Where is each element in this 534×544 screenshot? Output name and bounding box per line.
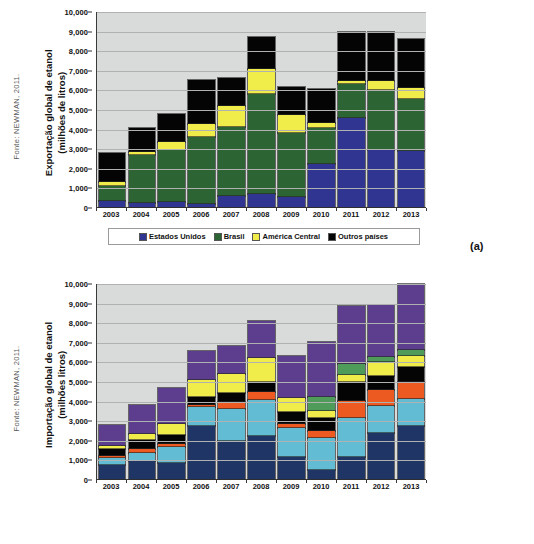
bar-segment-america-central [158, 424, 185, 435]
gridline [97, 110, 426, 111]
x-axis-label-2009: 2009 [278, 210, 305, 219]
bar-segment-america-central [308, 411, 335, 418]
bar-segment-america-central [218, 374, 245, 393]
x-axis-label-2013: 2013 [398, 482, 425, 491]
x-axis-labels-b: 2003200420052006200720082009201020112012… [96, 482, 426, 491]
y-axis-tick-label: 8,000 [69, 47, 88, 56]
gridline [97, 188, 426, 189]
bar-segment-brasil [308, 128, 335, 165]
y-axis-tick-mark [88, 480, 92, 481]
bar-segment-america-central [278, 398, 305, 413]
x-axis-label-2010: 2010 [308, 482, 335, 491]
bar-segment-brasil [158, 150, 185, 202]
y-axis-tick-mark [88, 12, 92, 13]
bar-segment-canada [218, 402, 245, 409]
x-axis-label-2010: 2010 [308, 210, 335, 219]
bar-segment-outros-países [338, 32, 365, 81]
bar-segment-canada [308, 431, 335, 438]
y-axis-tick-mark [88, 188, 92, 189]
gridline [97, 460, 426, 461]
x-axis-label-2012: 2012 [368, 210, 395, 219]
bar-segment-estados-unidos [368, 150, 395, 207]
source-note-b: Fonte: NEWMAN, 2011. [12, 339, 21, 439]
bar-segment-outros-países [188, 80, 215, 124]
source-note-a: Fonte: NEWMAN, 2011. [12, 67, 21, 167]
legend-item-estados-unidos[interactable]: Estados Unidos [140, 232, 206, 241]
x-axis-label-2013: 2013 [398, 210, 425, 219]
gridline [97, 149, 426, 150]
y-axis-tick-label: 2,000 [69, 436, 88, 445]
plot-canvas-b [96, 284, 426, 480]
y-axis-tick-mark [88, 323, 92, 324]
bar-segment-brasil [398, 99, 425, 151]
bar-segment-outros-países [158, 114, 185, 142]
legend-swatch-icon [253, 234, 259, 240]
bar-segment-ue [248, 400, 275, 436]
bar-segment-outros [188, 351, 215, 380]
y-axis-tick-mark [88, 31, 92, 32]
plot-area-a: 10,0009,0008,0007,0006,0005,0004,0003,00… [96, 12, 426, 208]
bar-segment-outros [308, 342, 335, 396]
y-axis-tick-label: 10,000 [64, 280, 88, 289]
bar-segment-japão [158, 435, 185, 444]
y-axis-tick-mark [88, 149, 92, 150]
bar-segment-brasil [129, 155, 156, 202]
plot-area-b: 10,0009,0008,0007,0006,0005,0004,0003,00… [96, 284, 426, 480]
bar-segment-estados-unidos [338, 118, 365, 207]
gridline [97, 32, 426, 33]
x-axis-label-2003: 2003 [98, 482, 125, 491]
y-axis-tick-mark [88, 168, 92, 169]
bar-segment-japão [398, 367, 425, 382]
y-axis-labels-b: 10,0009,0008,0007,0006,0005,0004,0003,00… [50, 284, 92, 480]
bar-segment-america-central [248, 358, 275, 382]
bar-segment-outros-países [129, 128, 156, 151]
bar-segment-japão [308, 418, 335, 431]
x-axis-tick-mark [426, 208, 427, 211]
bar-segment-outros [248, 321, 275, 358]
bar-segment-estados-unidos [129, 203, 156, 208]
bar-segment-outros [158, 388, 185, 424]
y-axis-tick-mark [88, 70, 92, 71]
bar-segment-estados-unidos [158, 202, 185, 207]
bar-segment-ue [338, 418, 365, 457]
bar-segment-ue [368, 406, 395, 433]
legend-item-outros-países[interactable]: Outros países [329, 232, 388, 241]
y-axis-tick-label: 6,000 [69, 358, 88, 367]
bar-segment-outros-países [218, 78, 245, 106]
gridline [97, 304, 426, 305]
bar-segment-outros [99, 425, 126, 446]
panel-tag-a: (a) [470, 240, 483, 252]
y-axis-tick-label: 4,000 [69, 125, 88, 134]
gridline [97, 343, 426, 344]
gridline [97, 12, 426, 13]
gridline [97, 421, 426, 422]
gridline [97, 284, 426, 285]
y-axis-tick-mark [88, 421, 92, 422]
legend-label: Outros países [338, 232, 388, 241]
legend-label: Estados Unidos [149, 232, 206, 241]
y-axis-labels-a: 10,0009,0008,0007,0006,0005,0004,0003,00… [50, 12, 92, 208]
bar-segment-américa-central [368, 81, 395, 89]
y-axis-tick-mark [88, 401, 92, 402]
bar-segment-brasil [368, 90, 395, 150]
legend-swatch-icon [215, 234, 221, 240]
bar-segment-eua [248, 436, 275, 479]
bar-segment-outros-países [308, 89, 335, 123]
legend-item-brasil[interactable]: Brasil [215, 232, 245, 241]
y-axis-tick-label: 10,000 [64, 8, 88, 17]
bar-segment-estados-unidos [398, 151, 425, 207]
y-axis-tick-mark [88, 382, 92, 383]
bar-segment-japão [338, 382, 365, 401]
bar-segment-outros [368, 305, 395, 357]
x-axis-tick-mark [426, 480, 427, 483]
bar-segment-eua [398, 426, 425, 479]
legend-item-américa-central[interactable]: América Central [253, 232, 320, 241]
y-axis-tick-label: 9,000 [69, 27, 88, 36]
y-axis-tick-label: 1,000 [69, 456, 88, 465]
figure-exportacao-global-etanol: Fonte: NEWMAN, 2011. Exportação global d… [0, 0, 534, 272]
bar-segment-eua [99, 465, 126, 479]
x-axis-labels-a: 2003200420052006200720082009201020112012… [96, 210, 426, 219]
legend-swatch-icon [329, 234, 335, 240]
y-axis-tick-mark [88, 342, 92, 343]
legend-label: América Central [262, 232, 320, 241]
